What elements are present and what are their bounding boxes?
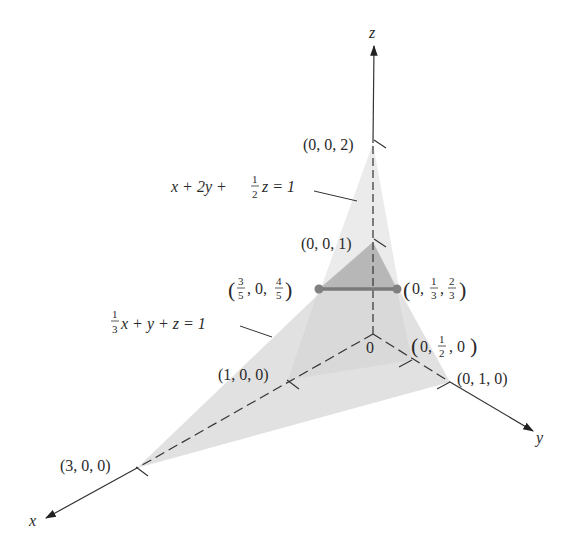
svg-text:3: 3 <box>449 289 455 301</box>
svg-text:): ) <box>470 333 477 358</box>
label-point-010: (0, 1, 0) <box>457 370 508 388</box>
origin-label: 0 <box>366 339 374 356</box>
y-axis-label: y <box>534 429 544 447</box>
plane-a-equation-label: x + 2y + 1 2 z = 1 <box>170 173 295 200</box>
svg-text:(: ( <box>228 277 235 302</box>
svg-text:4: 4 <box>276 275 282 287</box>
svg-text:5: 5 <box>276 289 282 301</box>
svg-text:3: 3 <box>238 275 244 287</box>
plane-b-equation-label: 1 3 x + y + z = 1 <box>111 308 206 335</box>
intersection-point-left <box>315 285 324 294</box>
two-planes-diagram: z y x 0 (0, 0, 2) (0, 0, 1) (1, 0, 0) (3… <box>0 0 577 552</box>
svg-text:1: 1 <box>252 173 258 185</box>
svg-text:): ) <box>459 277 466 302</box>
x-axis-label: x <box>28 512 36 529</box>
label-point-001: (0, 0, 1) <box>301 235 352 253</box>
svg-text:z = 1: z = 1 <box>261 178 295 195</box>
svg-text:, 0: , 0 <box>449 338 465 355</box>
label-point-100: (1, 0, 0) <box>218 366 269 384</box>
svg-text:5: 5 <box>238 289 244 301</box>
svg-text:,: , <box>440 280 444 297</box>
svg-text:, 0,: , 0, <box>247 280 267 297</box>
svg-text:1: 1 <box>439 333 445 345</box>
svg-text:): ) <box>285 277 292 302</box>
svg-text:2: 2 <box>439 347 445 359</box>
svg-text:(: ( <box>403 277 410 302</box>
svg-text:1: 1 <box>431 275 437 287</box>
intersection-point-right <box>393 285 402 294</box>
z-axis-label: z <box>368 24 376 41</box>
label-point-002: (0, 0, 2) <box>303 136 354 154</box>
label-point-right: ( 0, 1 3 , 2 3 ) <box>403 275 466 302</box>
svg-text:0,: 0, <box>412 280 424 297</box>
svg-text:3: 3 <box>431 289 437 301</box>
label-point-300: (3, 0, 0) <box>60 457 111 475</box>
svg-text:2: 2 <box>252 188 258 200</box>
svg-text:3: 3 <box>112 323 118 335</box>
svg-text:(: ( <box>411 333 418 358</box>
svg-text:x + y + z = 1: x + y + z = 1 <box>120 315 206 333</box>
svg-text:1: 1 <box>112 308 118 320</box>
svg-text:x + 2y +: x + 2y + <box>170 178 227 196</box>
label-point-left: ( 3 5 , 0, 4 5 ) <box>228 275 292 302</box>
svg-text:0,: 0, <box>420 338 432 355</box>
svg-text:2: 2 <box>449 275 455 287</box>
